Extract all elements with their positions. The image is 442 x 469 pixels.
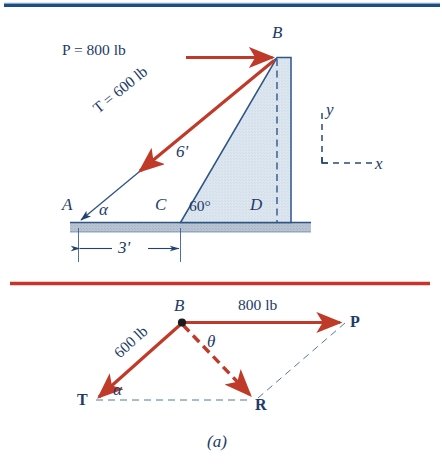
label-angle-60: 60° [189,198,211,214]
ground-strip [70,223,311,233]
label-angle-alpha-bottom: α [113,381,122,398]
label-angle-alpha-top: α [99,201,108,218]
figure-container: B P = 800 lb T = 600 lb 6' A α C 60° D y… [0,0,442,469]
top-divider-rule [4,3,440,5]
label-point-B-bottom: B [174,297,184,314]
coordinate-axes [322,113,372,163]
label-vector-P: P [350,314,360,330]
vector-R-arrow [183,325,250,395]
label-point-A: A [62,196,72,213]
label-force-P: P = 800 lb [62,42,126,58]
label-axis-y: y [326,101,334,118]
label-height-6ft: 6' [176,143,188,160]
label-point-C: C [155,196,166,213]
label-magnitude-800: 800 lb [238,297,277,313]
point-B-dot [178,318,186,326]
label-dimension-3ft: 3' [118,239,130,256]
figure-vector-graphics [0,0,442,469]
label-point-B-top: B [272,24,282,41]
label-axis-x: x [375,155,383,172]
label-point-D: D [250,196,262,213]
label-vector-R: R [255,397,267,413]
label-angle-theta: θ [207,333,215,350]
figure-caption: (a) [207,433,227,450]
label-vector-T: T [77,392,88,408]
